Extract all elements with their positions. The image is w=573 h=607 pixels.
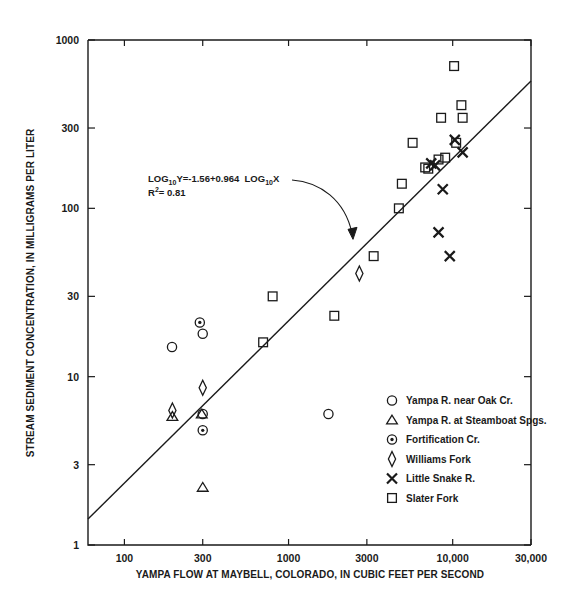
legend-item-1: Yampa R. at Steamboat Spgs. <box>387 415 547 426</box>
legend-item-0: Yampa R. near Oak Cr. <box>387 395 513 406</box>
x-tick-label: 1000 <box>277 552 301 564</box>
y-tick-label: 3 <box>73 459 79 471</box>
equation-spacer: LOG <box>239 173 265 184</box>
figure-container: 1003001000300010,00030,000 1310301003001… <box>0 0 573 607</box>
marker-center-dot <box>198 321 201 324</box>
y-tick-label: 300 <box>61 122 79 134</box>
marker-center-dot <box>201 429 204 432</box>
x-axis-title: YAMPA FLOW AT MAYBELL, COLORADO, IN CUBI… <box>136 569 484 580</box>
x-tick-label: 10,000 <box>437 552 469 564</box>
x-tick-label: 3000 <box>355 552 379 564</box>
equation-log-prefix: LOG <box>148 173 169 184</box>
x-tick-label: 100 <box>116 552 134 564</box>
legend-label: Williams Fork <box>406 454 471 465</box>
marker-center-dot <box>390 438 393 441</box>
y-axis-title: STREAM SEDIMENT CONCENTRATION, IN MILLIG… <box>25 128 36 457</box>
legend-label: Yampa R. at Steamboat Spgs. <box>406 415 547 426</box>
legend-label: Slater Fork <box>406 493 459 504</box>
x-tick-label: 300 <box>194 552 212 564</box>
r-squared-text: R2= 0.81 <box>148 186 186 198</box>
scatter-plot: 1003001000300010,00030,000 1310301003001… <box>0 0 573 607</box>
y-tick-label: 1000 <box>56 34 80 46</box>
y-tick-label: 100 <box>61 202 79 214</box>
x-tick-label: 30,000 <box>515 552 547 564</box>
equation-subscript-1: 10 <box>169 179 177 186</box>
legend-label: Yampa R. near Oak Cr. <box>406 395 513 406</box>
y-tick-label: 10 <box>67 371 79 383</box>
equation-body: Y=-1.56+0.964 <box>176 173 240 184</box>
y-tick-label: 1 <box>73 539 79 551</box>
y-tick-label: 30 <box>67 290 79 302</box>
r-squared-value: = 0.81 <box>159 187 186 198</box>
legend-label: Little Snake R. <box>406 473 475 484</box>
equation-subscript-2: 10 <box>265 179 273 186</box>
legend-label: Fortification Cr. <box>406 434 480 445</box>
plot-background <box>0 0 573 607</box>
equation-x: X <box>273 173 280 184</box>
